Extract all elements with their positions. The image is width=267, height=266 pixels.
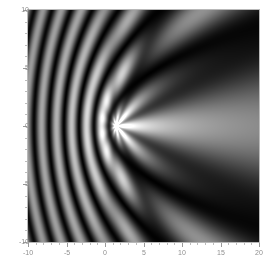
x-axis-tick-label: -10 xyxy=(23,249,33,257)
plot-frame xyxy=(27,9,260,243)
x-axis-minor-tick xyxy=(159,243,160,245)
y-axis-minor-tick xyxy=(25,207,27,208)
x-axis-minor-tick xyxy=(59,243,60,245)
x-axis-minor-tick xyxy=(90,243,91,245)
y-axis-minor-tick xyxy=(25,219,27,220)
y-axis-tick-label: -5 xyxy=(23,180,29,188)
y-axis-minor-tick xyxy=(25,196,27,197)
x-axis-minor-tick xyxy=(251,243,252,245)
x-axis-minor-tick xyxy=(197,243,198,245)
x-axis-minor-tick xyxy=(236,243,237,245)
x-axis-minor-tick xyxy=(36,243,37,245)
x-axis-tick xyxy=(144,243,145,247)
x-axis-minor-tick xyxy=(120,243,121,245)
y-axis-minor-tick xyxy=(25,45,27,46)
x-axis-tick-label: 0 xyxy=(103,249,107,257)
x-axis-tick-label: 15 xyxy=(217,249,225,257)
x-axis-minor-tick xyxy=(228,243,229,245)
x-axis-tick-label: 5 xyxy=(142,249,146,257)
x-axis-minor-tick xyxy=(174,243,175,245)
y-axis-minor-tick xyxy=(25,138,27,139)
y-axis-minor-tick xyxy=(25,161,27,162)
x-axis-minor-tick xyxy=(43,243,44,245)
y-axis-minor-tick xyxy=(25,56,27,57)
y-axis-tick-label: 5 xyxy=(25,64,29,72)
y-axis-minor-tick xyxy=(25,33,27,34)
x-axis-tick xyxy=(221,243,222,247)
y-axis-minor-tick xyxy=(25,149,27,150)
y-axis-minor-tick xyxy=(25,22,27,23)
x-axis-minor-tick xyxy=(113,243,114,245)
x-axis-minor-tick xyxy=(167,243,168,245)
x-axis-tick xyxy=(105,243,106,247)
x-axis-minor-tick xyxy=(213,243,214,245)
density-plot-figure: -10-505101520 -10-50510 xyxy=(0,0,267,266)
x-axis-tick-label: 20 xyxy=(255,249,263,257)
y-axis-tick-label: 0 xyxy=(25,122,29,130)
y-axis-tick-label: -10 xyxy=(19,238,29,246)
x-axis-tick xyxy=(259,243,260,247)
x-axis-minor-tick xyxy=(74,243,75,245)
y-axis-minor-tick xyxy=(25,80,27,81)
x-axis-tick-label: -5 xyxy=(64,249,70,257)
y-axis-tick-label: 10 xyxy=(21,6,29,14)
x-axis-minor-tick xyxy=(151,243,152,245)
x-axis-tick xyxy=(182,243,183,247)
y-axis-minor-tick xyxy=(25,172,27,173)
x-axis-minor-tick xyxy=(128,243,129,245)
x-axis-minor-tick xyxy=(97,243,98,245)
x-axis-minor-tick xyxy=(136,243,137,245)
x-axis-minor-tick xyxy=(51,243,52,245)
y-axis-minor-tick xyxy=(25,91,27,92)
x-axis-tick xyxy=(67,243,68,247)
y-axis-minor-tick xyxy=(25,114,27,115)
x-axis-minor-tick xyxy=(205,243,206,245)
y-axis-minor-tick xyxy=(25,103,27,104)
x-axis-minor-tick xyxy=(190,243,191,245)
x-axis-tick-label: 10 xyxy=(178,249,186,257)
x-axis-minor-tick xyxy=(244,243,245,245)
x-axis-minor-tick xyxy=(82,243,83,245)
density-heatmap-canvas xyxy=(28,10,259,242)
y-axis-minor-tick xyxy=(25,230,27,231)
